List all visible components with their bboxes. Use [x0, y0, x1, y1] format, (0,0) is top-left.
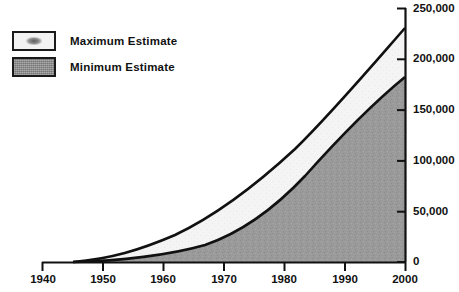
legend-swatch-minimum-estimate	[12, 57, 56, 77]
legend-item-maximum-estimate: Maximum Estimate	[12, 31, 177, 51]
x-tick-label-1970: 1970	[197, 273, 251, 285]
x-tick-label-1950: 1950	[76, 273, 130, 285]
y-tick-label-0: 0	[413, 255, 419, 267]
chart-container: Maximum Estimate Minimum Estimate 250,00…	[0, 0, 459, 292]
legend-label-minimum-estimate: Minimum Estimate	[70, 61, 175, 73]
legend-swatch-maximum-estimate	[12, 31, 56, 51]
x-tick-label-1990: 1990	[318, 273, 372, 285]
y-tick-label-250000: 250,000	[413, 2, 455, 14]
x-tick-label-1960: 1960	[136, 273, 190, 285]
x-tick-label-1980: 1980	[257, 273, 311, 285]
legend-label-maximum-estimate: Maximum Estimate	[70, 35, 177, 47]
y-tick-label-200000: 200,000	[413, 52, 455, 64]
x-tick-label-1940: 1940	[16, 273, 70, 285]
y-tick-label-150000: 150,000	[413, 103, 455, 115]
chart-legend: Maximum Estimate Minimum Estimate	[12, 31, 177, 77]
legend-item-minimum-estimate: Minimum Estimate	[12, 57, 177, 77]
y-tick-label-50000: 50,000	[413, 205, 448, 217]
x-tick-label-2000: 2000	[378, 273, 432, 285]
y-tick-label-100000: 100,000	[413, 154, 455, 166]
